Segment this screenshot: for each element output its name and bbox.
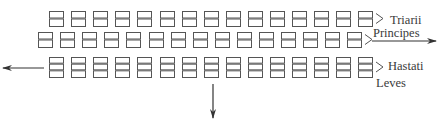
maniple-unit	[72, 58, 86, 78]
chevron-right-icon	[376, 14, 383, 24]
maniple-unit	[337, 12, 351, 27]
maniple-unit	[94, 12, 108, 27]
maniple-unit	[161, 58, 175, 78]
maniple-unit	[205, 58, 219, 78]
maniple-unit	[205, 12, 219, 27]
maniple-unit	[249, 58, 263, 78]
row-hastati	[50, 58, 373, 78]
maniple-rows	[39, 12, 373, 78]
maniple-unit	[359, 12, 373, 27]
maniple-unit	[39, 33, 53, 48]
maniple-unit	[172, 33, 186, 48]
row-triarii	[50, 12, 373, 27]
maniple-unit	[50, 58, 64, 78]
formation-diagram	[0, 0, 442, 123]
maniple-unit	[315, 58, 329, 78]
maniple-unit	[293, 12, 307, 27]
label-hastati: Hastati	[388, 60, 423, 73]
maniple-unit	[61, 33, 75, 48]
maniple-unit	[348, 33, 362, 48]
maniple-unit	[94, 58, 108, 78]
maniple-unit	[150, 33, 164, 48]
maniple-unit	[238, 33, 252, 48]
maniple-unit	[271, 58, 285, 78]
maniple-unit	[105, 33, 119, 48]
maniple-unit	[138, 12, 152, 27]
maniple-unit	[326, 33, 340, 48]
maniple-unit	[315, 12, 329, 27]
maniple-unit	[183, 58, 197, 78]
maniple-unit	[127, 33, 141, 48]
maniple-unit	[50, 12, 64, 27]
maniple-unit	[161, 12, 175, 27]
chevron-right-icon	[376, 62, 383, 72]
maniple-unit	[116, 12, 130, 27]
label-leves: Leves	[376, 77, 406, 90]
maniple-unit	[216, 33, 230, 48]
maniple-unit	[271, 12, 285, 27]
label-triarii: Triarii	[390, 14, 422, 27]
maniple-unit	[183, 12, 197, 27]
maniple-unit	[304, 33, 318, 48]
maniple-unit	[227, 12, 241, 27]
chevron-right-icon	[365, 35, 372, 45]
maniple-unit	[72, 12, 86, 27]
maniple-unit	[249, 12, 263, 27]
maniple-unit	[260, 33, 274, 48]
maniple-unit	[83, 33, 97, 48]
maniple-unit	[227, 58, 241, 78]
row-principes	[39, 33, 362, 48]
maniple-unit	[138, 58, 152, 78]
maniple-unit	[293, 58, 307, 78]
maniple-unit	[194, 33, 208, 48]
maniple-unit	[282, 33, 296, 48]
label-principes: Principes	[373, 27, 420, 40]
maniple-unit	[359, 58, 373, 78]
maniple-unit	[116, 58, 130, 78]
maniple-unit	[337, 58, 351, 78]
